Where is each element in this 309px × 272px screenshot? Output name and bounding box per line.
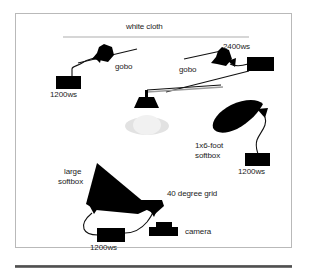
cable-pack-to-grid [125, 212, 153, 233]
bottom-divider [15, 265, 292, 268]
label-camera: camera [185, 227, 211, 237]
power-pack-left [56, 76, 81, 89]
strip-softbox-neck [257, 108, 268, 118]
label-power-strip-softbox: 1200ws [238, 167, 265, 177]
label-large-softbox-line2: softbox [58, 177, 83, 187]
lighting-setup-figure: white cloth gobo 1200ws gobo 2400ws 1x6-… [0, 0, 309, 272]
label-strip-softbox-line1: 1x6-foot [195, 141, 223, 151]
label-power-large-softbox: 1200ws [90, 243, 117, 253]
power-pack-large-softbox [97, 228, 125, 242]
diagram-canvas [16, 14, 293, 249]
cable-large-softbox [83, 213, 98, 235]
camera-body [149, 222, 178, 236]
strip-softbox-body [213, 100, 263, 133]
cable-strip-softbox [256, 117, 266, 154]
label-gobo-left: gobo [115, 62, 132, 72]
label-power-left: 1200ws [50, 90, 77, 100]
overhead-lamp-shade [134, 97, 159, 108]
gobo-light-left-head [92, 44, 114, 62]
label-power-right: 2400ws [223, 42, 250, 52]
label-strip-softbox-line2: softbox [195, 151, 220, 161]
power-pack-right [247, 57, 274, 71]
cable-left-gobo [72, 58, 94, 77]
overhead-lamp-stem [145, 90, 148, 97]
label-gobo-right: gobo [179, 65, 196, 75]
power-pack-strip-softbox [245, 153, 270, 166]
light-pool-core [133, 115, 161, 135]
label-white-cloth: white cloth [126, 22, 163, 32]
label-large-softbox-line1: large [64, 167, 81, 177]
diagram-frame: white cloth gobo 1200ws gobo 2400ws 1x6-… [15, 13, 292, 248]
label-grid: 40 degree grid [167, 189, 217, 199]
